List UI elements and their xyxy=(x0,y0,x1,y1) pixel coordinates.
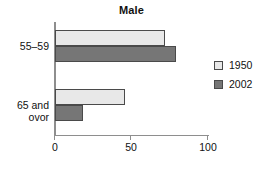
legend-label-2002: 2002 xyxy=(229,78,252,90)
chart-title: Male xyxy=(55,4,208,16)
plot-area: 0 50 100 xyxy=(55,22,208,135)
category-label-line: 55–59 xyxy=(0,40,49,52)
category-label-line: 65 and xyxy=(0,99,49,111)
bar-65-and-over-2002 xyxy=(55,105,83,121)
axis-tick-label-0: 0 xyxy=(35,141,75,153)
category-label-line: ovor xyxy=(0,111,49,123)
legend-swatch-2002-icon xyxy=(214,80,223,89)
bar-55-59-1950 xyxy=(55,30,165,46)
category-label-55-59: 55–59 xyxy=(0,40,49,52)
legend-swatch-1950-icon xyxy=(214,61,223,70)
axis-tick-label-50: 50 xyxy=(111,141,151,153)
value-axis-line xyxy=(54,135,209,136)
axis-tick-100 xyxy=(207,136,208,140)
axis-tick-label-100: 100 xyxy=(188,141,228,153)
category-label-65-and-over: 65 and ovor xyxy=(0,99,49,123)
chart-legend: 1950 2002 xyxy=(214,57,252,95)
bar-65-and-over-1950 xyxy=(55,89,125,105)
axis-tick-0 xyxy=(54,136,55,140)
legend-item-2002: 2002 xyxy=(214,76,252,92)
bar-chart-figure: Male 55–59 65 and ovor 0 50 100 1950 200… xyxy=(0,0,259,171)
legend-label-1950: 1950 xyxy=(229,59,252,71)
legend-item-1950: 1950 xyxy=(214,57,252,73)
axis-tick-50 xyxy=(130,136,131,140)
bar-55-59-2002 xyxy=(55,46,176,62)
